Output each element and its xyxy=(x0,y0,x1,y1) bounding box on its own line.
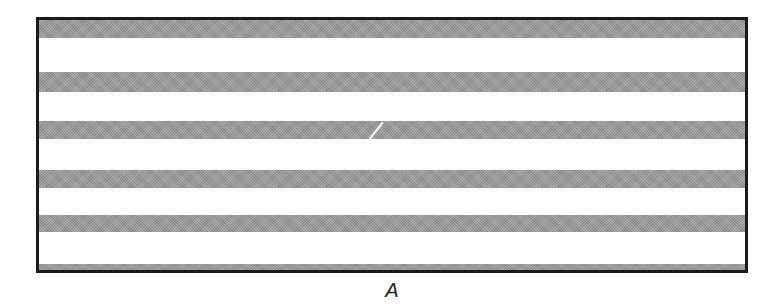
striped-panel xyxy=(36,17,748,273)
gray-stripe-1 xyxy=(39,20,745,38)
gray-stripe-6 xyxy=(39,264,745,273)
gray-stripe-5 xyxy=(39,215,745,232)
gray-stripe-2 xyxy=(39,72,745,92)
gray-stripe-4 xyxy=(39,170,745,188)
gray-stripe-3 xyxy=(39,121,745,139)
figure-label: A xyxy=(0,279,784,302)
